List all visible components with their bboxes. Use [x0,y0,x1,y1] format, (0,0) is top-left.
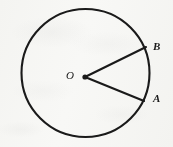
radius-line-OA [85,77,144,101]
label-point-b: B [153,41,161,52]
label-point-a: A [153,93,161,104]
main-circle [22,9,150,137]
label-center-o: O [66,70,74,81]
center-point-dot [82,74,87,79]
radius-line-OB [85,47,146,77]
circle-diagram-canvas [0,0,173,147]
geometry-figure: O B A [0,0,173,147]
